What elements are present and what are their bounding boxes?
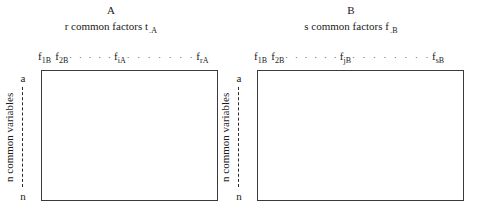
panel-b-factors-caption-subscript: .B xyxy=(389,26,398,35)
column-label-f2B: f2B xyxy=(55,50,68,67)
column-label-frA-subscript: rA xyxy=(200,56,209,65)
panel-b-column-labels: f1B f2B . . . . . . fjB . . . . . . . . … xyxy=(254,50,466,68)
column-label-fsB-subscript: sB xyxy=(436,56,445,65)
column-label-ellipsis-2-b: . . . . . . . . xyxy=(351,49,432,62)
panel-a-row-index-first: a xyxy=(17,72,29,84)
panel-a-row-axis-label: n common variables xyxy=(2,72,16,202)
column-label-ellipsis-2: . . . . . . . xyxy=(126,49,196,62)
panel-b-row-index-first: a xyxy=(233,72,245,84)
panel-b-row-index-dashed-rule xyxy=(238,87,239,187)
column-label-fjB-subscript: jB xyxy=(343,56,351,65)
column-label-fjB: fjB xyxy=(340,50,351,67)
panel-b-row-index-last: n xyxy=(233,190,245,202)
column-label-f1B-subscript: 1B xyxy=(42,56,52,65)
panel-b-letter: B xyxy=(240,4,462,16)
column-label-f2B-b-subscript: 2B xyxy=(275,56,285,65)
column-label-f2B-b: f2B xyxy=(271,50,284,67)
column-label-f1B: f1B xyxy=(38,50,51,67)
column-label-f1B-b: f1B xyxy=(254,50,267,67)
column-label-f1B-b-subscript: 1B xyxy=(258,56,268,65)
column-label-fsB: fsB xyxy=(432,50,444,67)
matrix-diagram-figure: A r common factors t.A f1B f2B . . . . .… xyxy=(0,0,478,217)
panel-b-row-index-column: a n xyxy=(233,72,245,202)
panel-a-factors-caption-text: r common factors t xyxy=(65,20,148,32)
panel-a-row-index-last: n xyxy=(17,190,29,202)
column-label-fiA-subscript: iA xyxy=(118,56,126,65)
panel-b-row-axis-label: n common variables xyxy=(218,72,232,202)
column-label-f2B-subscript: 2B xyxy=(59,56,69,65)
panel-a-factors-caption: r common factors t.A xyxy=(0,20,222,37)
panel-a-letter: A xyxy=(0,4,222,16)
panel-a-row-index-dashed-rule xyxy=(22,87,23,187)
matrix-box-b xyxy=(257,70,464,201)
panel-b-factors-caption-text: s common factors f xyxy=(304,20,389,32)
column-label-ellipsis-1-b: . . . . . . xyxy=(284,49,339,62)
panel-a: A r common factors t.A f1B f2B . . . . .… xyxy=(0,0,232,217)
panel-a-row-index-column: a n xyxy=(17,72,29,202)
panel-a-factors-caption-subscript: .A xyxy=(148,26,157,35)
column-label-ellipsis-1: . . . . . xyxy=(68,49,114,62)
panel-a-column-labels: f1B f2B . . . . . fiA . . . . . . . frA xyxy=(38,50,222,68)
panel-b-factors-caption: s common factors f.B xyxy=(240,20,462,37)
column-label-frA: frA xyxy=(196,50,208,67)
matrix-box-a xyxy=(41,70,218,201)
column-label-fiA: fiA xyxy=(114,50,126,67)
